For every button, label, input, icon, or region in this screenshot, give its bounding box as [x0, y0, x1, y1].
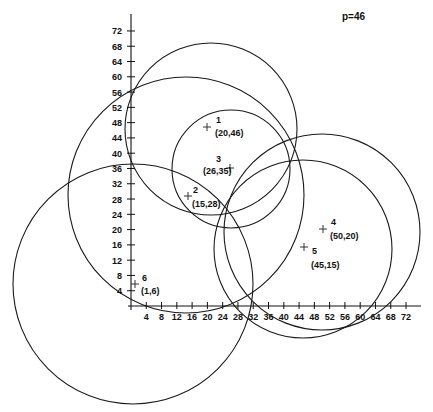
- circle-coverage-diagram: p=46 4812162024283236404448525660646872 …: [0, 0, 433, 412]
- circle-point-2: [68, 77, 304, 313]
- y-tick-label: 52: [112, 103, 122, 113]
- circle-point-1: [125, 43, 297, 215]
- y-tick-label: 24: [112, 210, 122, 220]
- y-tick-label: 56: [112, 88, 122, 98]
- x-tick-label: 44: [294, 312, 304, 322]
- y-tick-label: 44: [112, 133, 122, 143]
- y-tick-label: 40: [112, 149, 122, 159]
- x-tick-label: 36: [264, 312, 274, 322]
- point-6: 6 (1,6): [131, 273, 160, 296]
- point-5: 5 (45,15): [300, 243, 340, 270]
- x-tick-label: 64: [370, 312, 380, 322]
- y-tick-label: 28: [112, 195, 122, 205]
- y-tick-label: 72: [112, 26, 122, 36]
- y-tick-label: 12: [112, 256, 122, 266]
- y-tick-label: 16: [112, 240, 122, 250]
- point-2-coords: (15,28): [192, 199, 221, 209]
- x-tick-label: 68: [386, 312, 396, 322]
- parameter-label: p=46: [342, 11, 366, 22]
- point-2-id: 2: [193, 185, 198, 195]
- point-5-coords: (45,15): [311, 260, 340, 270]
- y-tick-label: 64: [112, 57, 122, 67]
- point-4-id: 4: [331, 217, 336, 227]
- x-tick-label: 28: [233, 312, 243, 322]
- y-tick-label: 20: [112, 225, 122, 235]
- point-5-id: 5: [312, 246, 317, 256]
- y-tick-label: 60: [112, 72, 122, 82]
- x-tick-label: 52: [325, 312, 335, 322]
- point-1: 1 (20,46): [203, 115, 244, 138]
- x-tick-label: 8: [159, 312, 164, 322]
- point-6-coords: (1,6): [141, 286, 160, 296]
- point-1-coords: (20,46): [215, 128, 244, 138]
- x-tick-label: 40: [279, 312, 289, 322]
- x-tick-label: 24: [218, 312, 228, 322]
- point-4-coords: (50,20): [330, 231, 359, 241]
- point-4: 4 (50,20): [319, 217, 359, 241]
- circles-group: [13, 43, 420, 404]
- point-3-coords: (26,35): [203, 166, 232, 176]
- y-tick-label: 68: [112, 42, 122, 52]
- y-tick-label: 32: [112, 179, 122, 189]
- point-3: 3 (26,35): [203, 154, 234, 176]
- y-tick-label: 36: [112, 164, 122, 174]
- y-tick-label: 8: [117, 271, 122, 281]
- x-tick-label: 56: [340, 312, 350, 322]
- point-1-id: 1: [216, 115, 221, 125]
- point-6-id: 6: [142, 273, 147, 283]
- x-tick-label: 12: [172, 312, 182, 322]
- x-tick-label: 20: [202, 312, 212, 322]
- y-tick-label: 4: [117, 286, 122, 296]
- x-tick-label: 4: [144, 312, 149, 322]
- x-tick-label: 72: [401, 312, 411, 322]
- x-tick-label: 16: [187, 312, 197, 322]
- point-3-id: 3: [216, 154, 221, 164]
- x-tick-label: 32: [248, 312, 258, 322]
- y-tick-label: 48: [112, 118, 122, 128]
- x-tick-label: 48: [309, 312, 319, 322]
- points-group: 1 (20,46) 2 (15,28) 3 (26,35) 4 (50,20): [131, 115, 359, 296]
- x-tick-label: 60: [355, 312, 365, 322]
